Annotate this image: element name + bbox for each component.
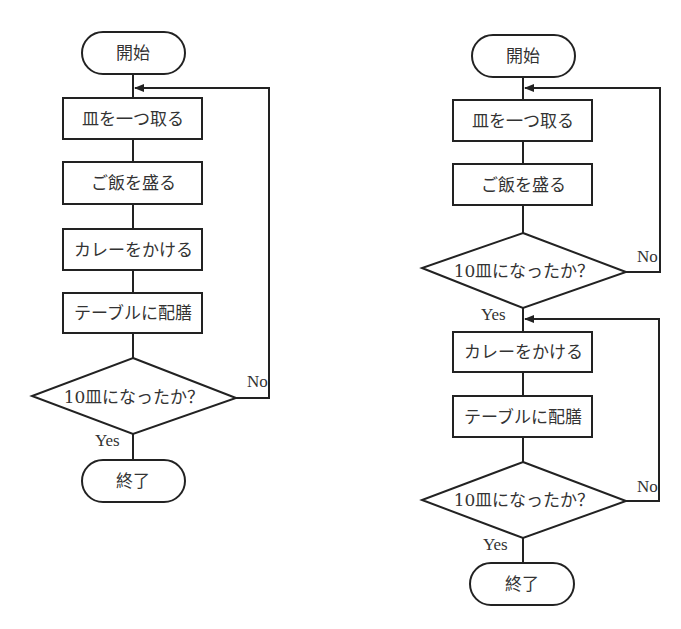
left-flowchart: 開始 皿を一つ取る ご飯を盛る カレーをかける テーブルに配膳 10皿になったか… [32, 32, 269, 502]
decision-label: 10皿になったか？ [64, 387, 205, 407]
no-label: No [247, 372, 268, 391]
no-label: No [637, 247, 658, 266]
decision-label: 10皿になったか？ [454, 261, 595, 281]
process-step-serve-table: テーブルに配膳 [453, 396, 592, 437]
process-step-pour-curry: カレーをかける [453, 332, 592, 372]
end-label: 終了 [116, 471, 150, 491]
yes-label: Yes [95, 431, 120, 450]
step-label: カレーをかける [74, 240, 193, 260]
step-label: ご飯を盛る [91, 173, 176, 193]
process-step-serve-rice: ご飯を盛る [453, 164, 592, 205]
process-step-take-plate: 皿を一つ取る [63, 98, 202, 139]
decision-ten-plates: 10皿になったか？ [32, 358, 236, 434]
yes-label: Yes [481, 305, 506, 324]
step-label: 皿を一つ取る [472, 111, 574, 131]
end-terminal: 終了 [470, 563, 574, 605]
step-label: ご飯を盛る [481, 175, 566, 195]
step-label: テーブルに配膳 [464, 407, 582, 427]
end-terminal: 終了 [82, 460, 185, 502]
step-label: テーブルに配膳 [74, 303, 192, 323]
start-label: 開始 [506, 46, 540, 66]
decision2-ten-plates: 10皿になったか？ [422, 462, 626, 538]
process-step-serve-table: テーブルに配膳 [63, 293, 202, 333]
start-label: 開始 [116, 43, 150, 63]
process-step-take-plate: 皿を一つ取る [453, 100, 592, 141]
end-label: 終了 [505, 574, 539, 594]
step-label: 皿を一つ取る [82, 109, 184, 129]
process-step-serve-rice: ご飯を盛る [63, 162, 202, 204]
flowchart-canvas: 開始 皿を一つ取る ご飯を盛る カレーをかける テーブルに配膳 10皿になったか… [0, 0, 681, 629]
right-flowchart: 開始 皿を一つ取る ご飯を盛る 10皿になったか？ No Yes カレーをかける… [422, 35, 660, 605]
process-step-pour-curry: カレーをかける [63, 229, 202, 270]
decision1-ten-plates: 10皿になったか？ [422, 233, 626, 308]
yes-label: Yes [483, 535, 508, 554]
no-label: No [637, 477, 658, 496]
start-terminal: 開始 [472, 35, 575, 77]
step-label: カレーをかける [464, 342, 583, 362]
start-terminal: 開始 [82, 32, 185, 74]
decision-label: 10皿になったか？ [454, 490, 595, 510]
